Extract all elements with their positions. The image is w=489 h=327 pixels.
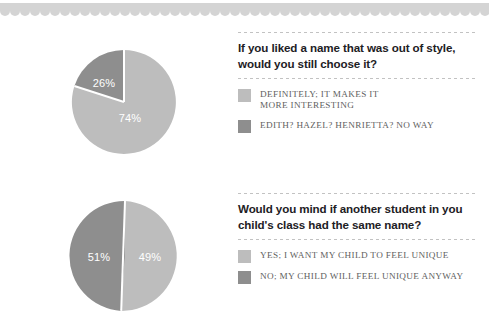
scallop-band-icon [0,3,489,16]
survey-panel-2: 51% 49% Would you mind if another studen… [0,173,489,327]
question-text-2: Would you mind if another student in you… [238,201,478,232]
legend-2: YES; I WANT MY CHILD TO FEEL UNIQUE NO; … [238,249,478,284]
pie-slice-2-minor-label: 51% [88,251,111,263]
legend-item-label: NO; MY CHILD WILL FEEL UNIQUE ANYWAY [260,270,463,282]
legend-item-label: DEFINITELY; IT MAKES IT MORE INTERESTING [260,88,379,112]
legend-item-label: EDITH? HAZEL? HENRIETTA? NO WAY [260,119,434,131]
legend-swatch-icon [238,250,251,263]
divider-bottom-1 [238,78,478,79]
legend-swatch-icon [238,120,251,133]
scalloped-edge-band [0,2,489,15]
divider-top-1 [238,32,478,33]
pie-chart-2-svg: 51% 49% [68,199,182,313]
legend-item[interactable]: EDITH? HAZEL? HENRIETTA? NO WAY [238,119,478,133]
divider-top-2 [238,193,478,194]
infographic-page: 26% 74% If you liked a name that was out… [0,0,489,327]
pie-chart-1: 26% 74% [68,46,180,158]
legend-item[interactable]: NO; MY CHILD WILL FEEL UNIQUE ANYWAY [238,270,478,284]
legend-item[interactable]: YES; I WANT MY CHILD TO FEEL UNIQUE [238,249,478,263]
pie-chart-1-svg: 26% 74% [68,46,180,158]
pie-slice-2-major-label: 49% [139,251,162,263]
legend-item[interactable]: DEFINITELY; IT MAKES IT MORE INTERESTING [238,88,478,112]
pie-slice-1-minor-label: 26% [93,77,116,89]
legend-swatch-icon [238,271,251,284]
panel-2-text-column: Would you mind if another student in you… [238,193,478,291]
question-text-1: If you liked a name that was out of styl… [238,40,478,71]
legend-1: DEFINITELY; IT MAKES IT MORE INTERESTING… [238,88,478,133]
legend-item-label: YES; I WANT MY CHILD TO FEEL UNIQUE [260,249,449,261]
pie-chart-2: 51% 49% [68,199,182,313]
pie-slice-1-major-label: 74% [119,112,142,124]
divider-bottom-2 [238,239,478,240]
panel-1-text-column: If you liked a name that was out of styl… [238,32,478,140]
legend-swatch-icon [238,89,251,102]
survey-panel-1: 26% 74% If you liked a name that was out… [0,18,489,173]
